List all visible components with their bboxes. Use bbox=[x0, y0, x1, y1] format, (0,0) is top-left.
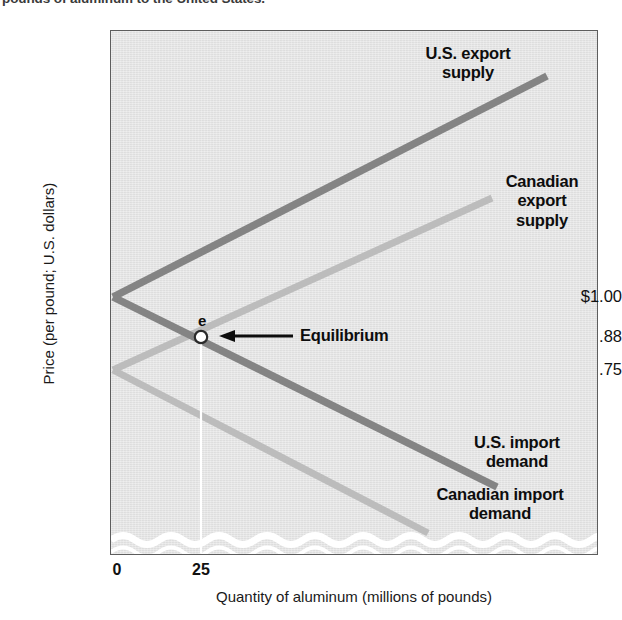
label-canadian-export-supply: Canadian export supply bbox=[488, 172, 596, 230]
y-axis-title: Price (per pound; U.S. dollars) bbox=[40, 134, 57, 434]
chart-graphics bbox=[0, 0, 622, 620]
figure-container: Price (per pound; U.S. dollars) Quantity… bbox=[0, 0, 622, 620]
y-tick-0-75: .75 bbox=[522, 360, 622, 379]
axis-break-wave bbox=[111, 536, 615, 545]
label-us-export-supply: U.S. export supply bbox=[398, 44, 538, 83]
axis-break-wave-lower bbox=[111, 548, 615, 557]
line-us-export-supply bbox=[113, 76, 547, 297]
x-tick-0: 0 bbox=[104, 561, 130, 579]
equilibrium-callout-label: Equilibrium bbox=[300, 326, 389, 345]
line-canadian-import-demand bbox=[113, 370, 428, 533]
equilibrium-point-marker bbox=[195, 331, 207, 343]
x-tick-25: 25 bbox=[186, 561, 216, 579]
label-us-import-demand: U.S. import demand bbox=[452, 433, 582, 472]
x-axis-title: Quantity of aluminum (millions of pounds… bbox=[110, 588, 598, 605]
y-tick-1-00: $1.00 bbox=[522, 287, 622, 306]
label-canadian-import-demand: Canadian import demand bbox=[409, 485, 591, 524]
equilibrium-point-label: e bbox=[198, 312, 206, 329]
y-tick-0-88: .88 bbox=[522, 327, 622, 346]
equilibrium-arrow bbox=[219, 330, 293, 342]
